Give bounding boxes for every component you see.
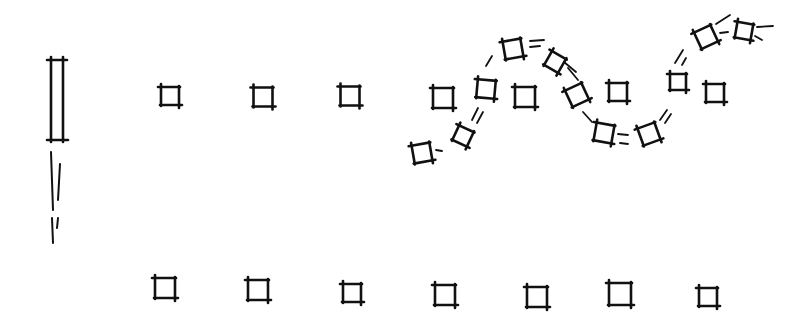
sketch-canvas [0, 0, 809, 328]
column-square-icon [524, 284, 550, 310]
column-square-icon [432, 282, 458, 308]
column-square-icon [703, 81, 727, 105]
tilted-column-square-icon [408, 139, 436, 167]
pillar [47, 57, 68, 142]
column-square-icon [338, 84, 363, 109]
column-square-icon [152, 275, 178, 301]
tilted-column-square-icon [690, 21, 722, 53]
column-square-icon [606, 80, 630, 104]
column-square-icon [512, 84, 538, 110]
pillar-dashed-extension [51, 152, 60, 243]
column-square-icon [606, 280, 634, 308]
column-square-icon [430, 85, 456, 111]
column-square-icon [158, 84, 182, 108]
tilted-column-square-icon [448, 121, 477, 150]
column-square-icon [340, 281, 364, 305]
tilted-column-square-icon [540, 47, 570, 77]
tilted-column-square-icon [634, 119, 665, 150]
tilted-column-square-icon [590, 119, 618, 147]
tilted-column-square-icon [473, 76, 499, 102]
tilted-column-square-icon [667, 71, 689, 93]
sketch-drawing [0, 0, 809, 328]
column-square-icon [696, 285, 720, 309]
tilted-column-square-icon [561, 79, 593, 111]
tilted-column-square-icon [731, 18, 756, 43]
column-square-icon [245, 277, 271, 303]
tilted-column-square-icon [499, 35, 527, 63]
wave-line-columns [408, 18, 757, 167]
column-square-icon [251, 85, 276, 110]
top-row-columns [158, 80, 727, 111]
bottom-row-columns [152, 275, 720, 310]
